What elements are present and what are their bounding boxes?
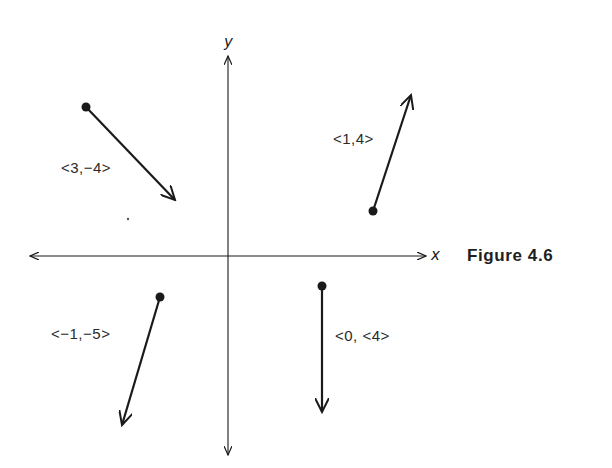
x-axis-label: x xyxy=(431,248,440,263)
vector-arrow-icon xyxy=(86,107,175,200)
vector-label-1-4: <1,4> xyxy=(333,131,374,146)
vector-3-neg4 xyxy=(82,103,176,201)
vector-label-0-neg4: <0, <4> xyxy=(335,328,390,343)
vector-neg1-neg5 xyxy=(122,293,165,426)
vector-tail-dot xyxy=(369,207,378,216)
vector-tail-dot xyxy=(82,103,91,112)
figure-caption: Figure 4.6 xyxy=(467,247,553,264)
y-axis-label: y xyxy=(224,35,233,50)
speck-mark xyxy=(127,218,129,220)
vector-tail-dot xyxy=(156,293,165,302)
vector-arrow-icon xyxy=(122,297,160,425)
vector-1-4 xyxy=(369,95,412,216)
vector-0-neg4 xyxy=(318,282,327,413)
vector-label-3-neg4: <3,−4> xyxy=(61,160,111,175)
coordinate-plane xyxy=(0,0,612,468)
vector-tail-dot xyxy=(318,282,327,291)
vector-arrow-icon xyxy=(373,95,411,211)
vector-label-neg1-neg5: <−1,−5> xyxy=(51,326,110,341)
